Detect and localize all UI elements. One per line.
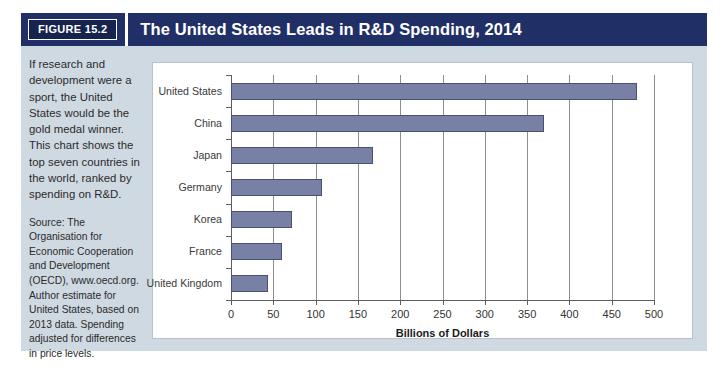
- x-tick-150: [358, 300, 359, 305]
- gridline-300: [485, 75, 486, 300]
- page-top-margin: [0, 0, 728, 13]
- y-axis-label-japan: Japan: [193, 147, 222, 164]
- bar-japan: [231, 147, 373, 164]
- x-tick-label-500: 500: [645, 308, 663, 320]
- y-axis-label-united-states: United States: [158, 83, 222, 100]
- x-tick-350: [527, 300, 528, 305]
- x-axis-title: Billions of Dollars: [231, 327, 654, 339]
- y-axis-label-united-kingdom: United Kingdom: [147, 275, 222, 292]
- y-axis-label-korea: Korea: [194, 211, 222, 228]
- x-tick-label-100: 100: [306, 308, 324, 320]
- caption-source-text: Source: The Organisation for Economic Co…: [29, 216, 141, 362]
- x-tick-label-50: 50: [267, 308, 279, 320]
- banner-divider: [125, 13, 128, 46]
- x-tick-label-400: 400: [560, 308, 578, 320]
- bar-united-kingdom: [231, 275, 268, 292]
- y-tick-4: [226, 204, 231, 205]
- caption-body-text: If research and development were a sport…: [29, 56, 141, 203]
- x-tick-label-150: 150: [349, 308, 367, 320]
- gridline-250: [443, 75, 444, 300]
- x-tick-label-450: 450: [603, 308, 621, 320]
- y-axis-label-germany: Germany: [178, 179, 222, 196]
- x-tick-0: [231, 300, 232, 305]
- x-tick-label-200: 200: [391, 308, 409, 320]
- x-tick-500: [654, 300, 655, 305]
- x-tick-label-250: 250: [433, 308, 451, 320]
- bar-germany: [231, 179, 322, 196]
- gridline-150: [358, 75, 359, 300]
- y-tick-2: [226, 139, 231, 140]
- x-tick-50: [273, 300, 274, 305]
- x-tick-450: [612, 300, 613, 305]
- figure-header-banner: FIGURE 15.2 The United States Leads in R…: [21, 13, 707, 46]
- y-tick-1: [226, 107, 231, 108]
- y-tick-0: [226, 75, 231, 76]
- x-tick-label-350: 350: [518, 308, 536, 320]
- bar-china: [231, 115, 544, 132]
- x-tick-label-300: 300: [476, 308, 494, 320]
- y-axis-label-france: France: [189, 243, 222, 260]
- gridline-500: [654, 75, 655, 300]
- x-tick-300: [485, 300, 486, 305]
- bar-united-states: [231, 83, 637, 100]
- gridline-200: [400, 75, 401, 300]
- gridline-450: [612, 75, 613, 300]
- figure-title: The United States Leads in R&D Spending,…: [140, 20, 521, 39]
- x-tick-200: [400, 300, 401, 305]
- x-tick-100: [316, 300, 317, 305]
- y-tick-3: [226, 171, 231, 172]
- y-tick-6: [226, 268, 231, 269]
- figure-number-tag: FIGURE 15.2: [28, 19, 117, 40]
- caption-column: If research and development were a sport…: [29, 56, 141, 351]
- chart-panel: Billions of Dollars 05010015020025030035…: [152, 62, 693, 339]
- y-tick-5: [226, 236, 231, 237]
- x-tick-400: [569, 300, 570, 305]
- x-tick-label-0: 0: [228, 308, 234, 320]
- gridline-350: [527, 75, 528, 300]
- x-tick-250: [443, 300, 444, 305]
- figure-container: FIGURE 15.2 The United States Leads in R…: [0, 0, 728, 369]
- bar-korea: [231, 211, 292, 228]
- y-tick-end: [226, 300, 231, 301]
- bar-france: [231, 243, 282, 260]
- bar-chart-plot-area: Billions of Dollars 05010015020025030035…: [231, 75, 654, 300]
- gridline-400: [569, 75, 570, 300]
- y-axis-label-china: China: [194, 115, 222, 132]
